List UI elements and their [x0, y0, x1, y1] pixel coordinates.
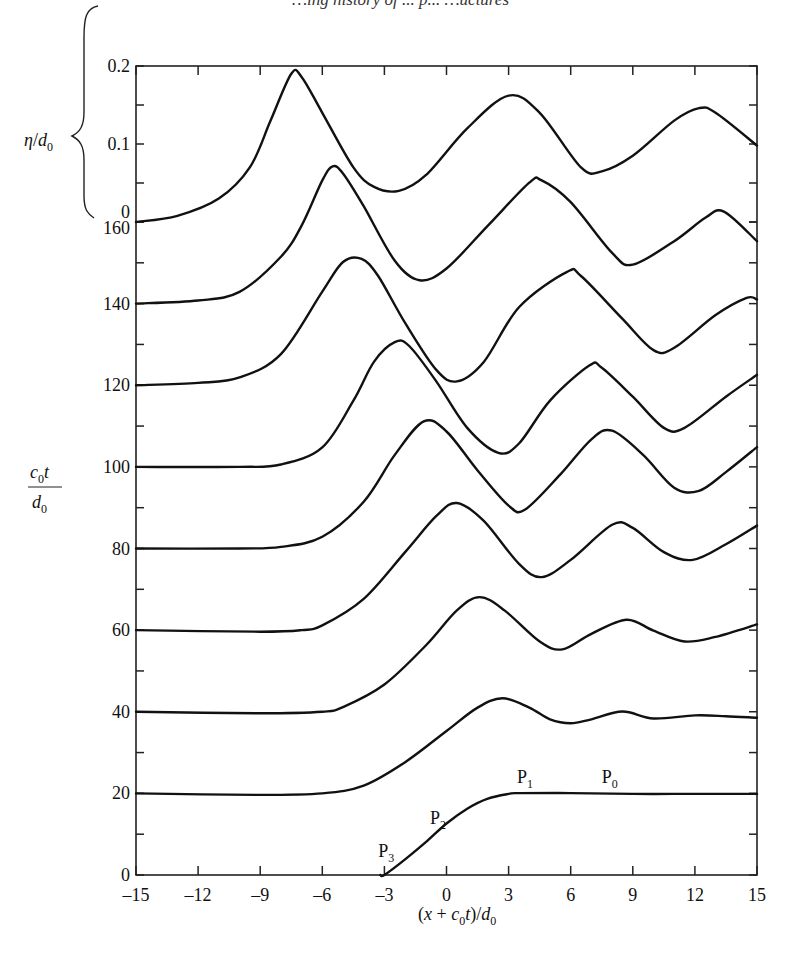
y-tick-label: 0 — [121, 865, 130, 885]
annotation-p1: P1 — [517, 767, 533, 791]
x-tick-label: –3 — [374, 885, 393, 905]
series-curve-t80 — [136, 420, 757, 548]
x-tick-label: 0 — [442, 885, 451, 905]
y-tick-label: 140 — [103, 294, 130, 314]
svg-text:c0t: c0t — [30, 462, 50, 486]
y-axis-title: c0t d0 — [28, 462, 62, 516]
y-tick-label: 60 — [112, 620, 130, 640]
series-curve-t0 — [380, 793, 757, 876]
eta-axis-title: η/d0 — [24, 130, 53, 154]
series-curve-t140 — [136, 166, 757, 304]
y-tick-label: 120 — [103, 375, 130, 395]
x-tick-label: 15 — [748, 885, 766, 905]
annotation-p0: P0 — [602, 767, 618, 791]
y-tick-label: 100 — [103, 457, 130, 477]
point-annotations: P3P2P1P0 — [378, 767, 618, 864]
x-tick-label: –12 — [184, 885, 212, 905]
axis-ticks — [136, 66, 757, 875]
series-curve-t120 — [136, 257, 757, 385]
eta-brace — [72, 6, 98, 218]
x-tick-label: –15 — [122, 885, 150, 905]
y-tick-label: 80 — [112, 539, 130, 559]
x-tick-label: 6 — [566, 885, 575, 905]
series-curve-t60 — [136, 503, 757, 632]
x-axis-title: (x + c0t)/d0 — [418, 904, 496, 928]
series-curve-t40 — [136, 597, 757, 713]
y-tick-label: 40 — [112, 702, 130, 722]
annotation-p2: P2 — [430, 808, 446, 832]
x-tick-label: 9 — [628, 885, 637, 905]
x-tick-label: 12 — [686, 885, 704, 905]
series-curves — [136, 70, 757, 876]
series-curve-t160 — [136, 70, 757, 222]
eta-tick-label: 0.1 — [108, 134, 131, 154]
x-tick-label: 3 — [504, 885, 513, 905]
plot-area — [136, 66, 757, 875]
plot-frame — [136, 66, 757, 875]
y-tick-label: 20 — [112, 783, 130, 803]
eta-tick-label: 0 — [121, 202, 130, 222]
series-curve-t100 — [136, 340, 757, 467]
x-tick-label: –6 — [312, 885, 331, 905]
chart: –15–12–9–6–30369121502040608010012014016… — [0, 0, 801, 962]
annotation-p3: P3 — [378, 841, 394, 865]
x-tick-label: –9 — [250, 885, 269, 905]
svg-text:d0: d0 — [32, 492, 47, 516]
eta-tick-label: 0.2 — [108, 56, 131, 76]
